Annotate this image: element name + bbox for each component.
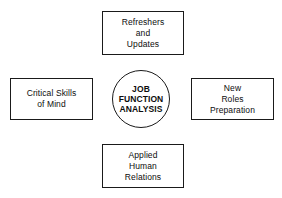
diagram-node-label: Applied Human Relations [125,150,161,183]
diagram-node-label: Refreshers and Updates [122,17,165,50]
diagram-node-job-function-analysis: JOB FUNCTION ANALYSIS [112,70,170,128]
diagram-node-new-roles-preparation: New Roles Preparation [191,78,274,120]
diagram-canvas: Refreshers and Updates Critical Skills o… [0,0,282,198]
diagram-node-label: Critical Skills of Mind [27,88,77,110]
diagram-node-critical-skills-of-mind: Critical Skills of Mind [10,78,93,120]
diagram-center-label: JOB FUNCTION ANALYSIS [119,84,164,114]
diagram-node-applied-human-relations: Applied Human Relations [102,144,184,188]
diagram-node-refreshers-and-updates: Refreshers and Updates [102,11,184,55]
diagram-node-label: New Roles Preparation [210,83,255,116]
